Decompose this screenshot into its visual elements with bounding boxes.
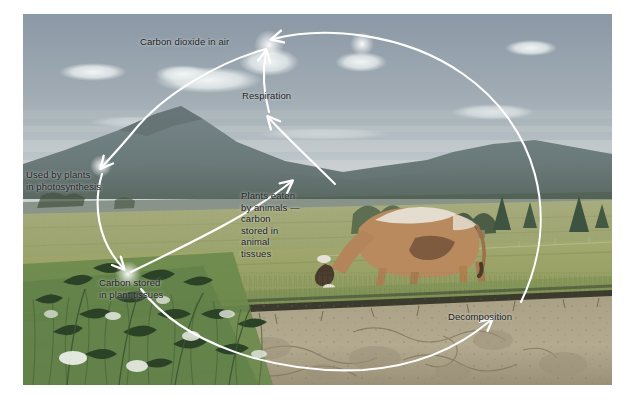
carbon-cycle-figure: Carbon dioxide in air Respiration Used b…	[0, 0, 630, 400]
illustration-canvas	[23, 14, 612, 385]
foreground-plants	[23, 252, 273, 385]
scene-svg	[23, 14, 612, 385]
